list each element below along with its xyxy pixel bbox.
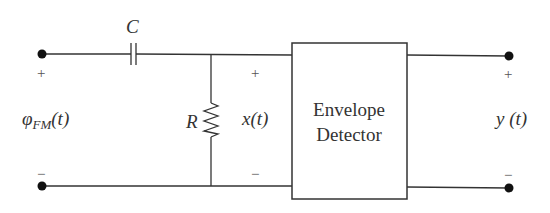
y-signal-arg: (t) — [504, 108, 527, 130]
capacitor-symbol — [131, 43, 136, 65]
input-terminal-top — [38, 50, 47, 59]
bottom-wire-output — [407, 187, 509, 188]
resistor-label: R — [185, 111, 198, 132]
input-signal-label: φFM(t) — [22, 108, 69, 132]
y-signal-label: y (t) — [494, 108, 527, 130]
capacitor-label: C — [126, 16, 139, 37]
input-terminal-bottom — [38, 182, 47, 191]
top-wire-output — [407, 55, 509, 56]
top-wire-middle — [136, 54, 292, 55]
input-plus-sign: + — [37, 65, 45, 81]
circuit-diagram: C R Envelope Detector + − φFM(t) + − x(t… — [0, 0, 550, 213]
x-plus-sign: + — [251, 65, 259, 81]
input-signal-main: φ — [22, 108, 33, 129]
x-signal-arg: (t) — [250, 108, 268, 130]
x-signal-label: x(t) — [241, 108, 268, 130]
envelope-detector-block — [292, 43, 407, 199]
output-minus-sign: − — [504, 167, 512, 183]
output-terminal-top — [505, 52, 514, 61]
input-signal-arg: (t) — [51, 108, 69, 130]
block-label-line2: Detector — [316, 124, 382, 145]
y-signal-main: y — [494, 108, 505, 129]
x-minus-sign: − — [251, 166, 259, 182]
block-label-line1: Envelope — [313, 99, 385, 120]
input-signal-sub: FM — [32, 117, 53, 132]
input-minus-sign: − — [37, 166, 45, 182]
resistor-symbol — [204, 54, 218, 186]
output-terminal-bottom — [505, 184, 514, 193]
output-plus-sign: + — [504, 66, 512, 82]
